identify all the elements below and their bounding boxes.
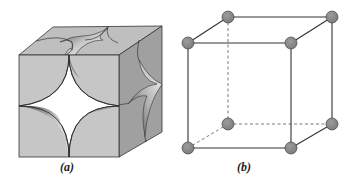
atom-front-top-left	[182, 37, 194, 49]
panel-a-space-filling-cube	[19, 26, 162, 157]
atom-back-bottom-right	[326, 118, 338, 130]
panel-b-ball-and-stick-cube	[182, 11, 338, 154]
atom-front-bottom-left	[182, 142, 194, 154]
atom-back-top-left	[222, 11, 234, 23]
atom-front-bottom-right	[285, 142, 297, 154]
hidden-edges	[188, 17, 332, 148]
corner-atoms	[182, 11, 338, 154]
atom-front-top-right	[285, 37, 297, 49]
atom-back-bottom-left	[222, 118, 234, 130]
figure-canvas	[0, 0, 340, 184]
panel-b-label: (b)	[237, 160, 251, 175]
visible-edges	[188, 17, 332, 148]
atom-back-top-right	[326, 11, 338, 23]
panel-a-label: (a)	[60, 160, 74, 175]
